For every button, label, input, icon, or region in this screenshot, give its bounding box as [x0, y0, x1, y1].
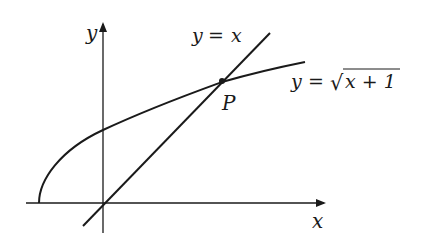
point-p	[219, 78, 225, 84]
svg-text:y: y	[191, 24, 203, 46]
curve-sqrt	[39, 62, 305, 203]
curve-equation-label: y = √ x + 1	[290, 69, 400, 95]
svg-text:=: =	[208, 24, 224, 46]
graph-diagram: y x P y = x y = √ x + 1	[0, 0, 431, 239]
svg-text:x: x	[231, 24, 242, 46]
line-y-equals-x	[83, 33, 270, 226]
line-equation-label: y = x	[191, 24, 242, 46]
point-p-label: P	[221, 91, 236, 115]
radical-sign: √	[330, 71, 344, 95]
svg-text:x + 1: x + 1	[345, 70, 396, 92]
x-axis-label: x	[312, 209, 323, 233]
y-axis-label: y	[85, 21, 98, 45]
svg-text:y: y	[290, 70, 302, 92]
svg-text:=: =	[308, 70, 324, 92]
